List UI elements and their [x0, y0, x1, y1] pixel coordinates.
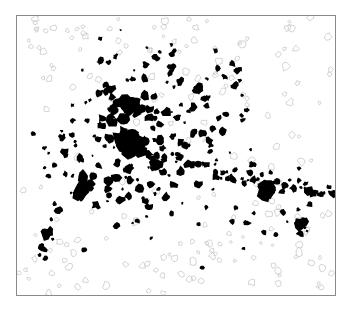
settlement-map [17, 16, 336, 296]
map-frame [16, 15, 336, 296]
